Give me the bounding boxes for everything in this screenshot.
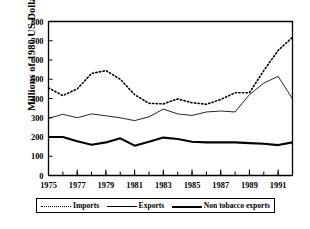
y-tick-label: 100	[31, 152, 44, 161]
x-tick-label: 1979	[98, 181, 115, 190]
axis-lines-group	[49, 22, 293, 176]
x-tick-label: 1983	[155, 181, 172, 190]
x-tick-label: 1985	[184, 181, 201, 190]
legend-label-imports: Imports	[73, 202, 99, 210]
x-tick-mark-group	[49, 170, 293, 176]
y-tick-label: 0	[39, 172, 43, 181]
chart-plot-area: 0100200300400500600700800 19751977197919…	[0, 0, 310, 229]
legend-item-imports: Imports	[41, 202, 99, 210]
legend-item-non-tobacco-exports: Non tobacco exports	[172, 202, 270, 210]
series-line-imports	[49, 37, 293, 104]
legend-item-exports: Exports	[107, 202, 165, 210]
y-tick-label: 200	[31, 133, 44, 142]
y-tick-label: 600	[31, 56, 44, 65]
legend-label-exports: Exports	[139, 202, 165, 210]
plot-frame	[49, 22, 293, 176]
y-tick-label-group: 0100200300400500600700800	[31, 18, 44, 181]
series-line-non-tobacco-exports	[49, 137, 293, 146]
x-tick-label: 1977	[69, 181, 86, 190]
x-tick-label: 1991	[270, 181, 287, 190]
legend-swatch-dotted-icon	[41, 203, 71, 209]
chart-legend: Imports Exports Non tobacco exports	[36, 198, 275, 213]
x-tick-label: 1975	[40, 181, 57, 190]
y-tick-label: 800	[31, 18, 44, 27]
x-tick-label-group: 197519771979198119831985198719891991	[40, 181, 286, 190]
x-tick-label: 1987	[212, 181, 229, 190]
x-tick-label: 1989	[241, 181, 258, 190]
legend-label-non-tobacco-exports: Non tobacco exports	[204, 202, 270, 210]
legend-swatch-thin-line-icon	[107, 203, 137, 209]
legend-swatch-thick-line-icon	[172, 203, 202, 209]
y-tick-label: 500	[31, 75, 44, 84]
data-series-group	[49, 37, 293, 145]
y-tick-label: 400	[31, 95, 44, 104]
y-tick-label: 700	[31, 37, 44, 46]
x-tick-label: 1981	[126, 181, 143, 190]
chart-figure: Millions of 1980 US Dollars 010020030040…	[0, 0, 310, 229]
y-tick-label: 300	[31, 114, 44, 123]
